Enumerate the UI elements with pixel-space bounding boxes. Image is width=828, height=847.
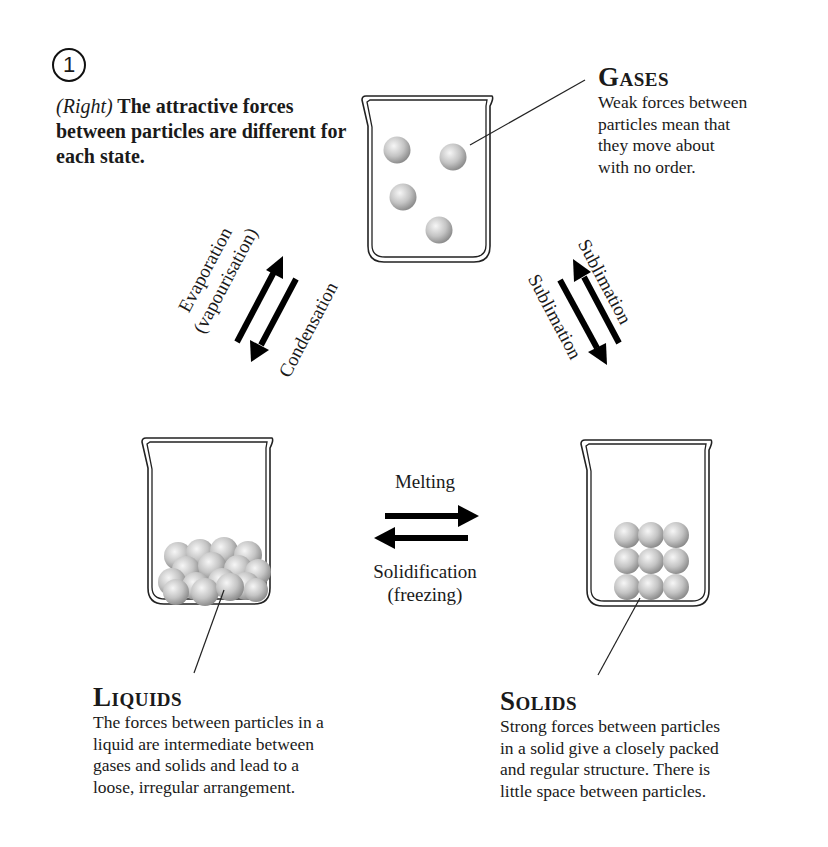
melting-arrow (385, 505, 479, 527)
solidification-label: Solidification (freezing) (350, 560, 500, 606)
liquid-particles (158, 537, 271, 606)
caption-prefix: (Right) (56, 95, 113, 117)
liquids-desc-line: loose, irregular arrangement. (93, 777, 393, 799)
gas-particles (384, 137, 467, 244)
liquids-desc-line: The forces between particles in a (93, 712, 393, 734)
gases-desc-line: with no order. (598, 157, 828, 179)
liquids-description: The forces between particles in a liquid… (93, 712, 393, 798)
solids-leader-line (598, 598, 640, 675)
gases-desc-line: they move about (598, 135, 828, 157)
solids-desc-line: Strong forces between particles (500, 716, 800, 738)
liquids-label-block: Liquids The forces between particles in … (93, 682, 393, 798)
liquids-desc-line: gases and solids and lead to a (93, 755, 393, 777)
step-number-badge: 1 (52, 48, 86, 82)
gases-title: Gases (598, 62, 828, 92)
gases-leader-line (470, 80, 585, 145)
figure-caption: (Right) The attractive forces between pa… (56, 94, 356, 169)
melting-text: Melting (370, 470, 480, 493)
solid-particles (614, 522, 689, 600)
solids-desc-line: and regular structure. There is (500, 759, 800, 781)
gases-label-block: Gases Weak forces between particles mean… (598, 62, 828, 178)
solids-desc-line: in a solid give a closely packed (500, 738, 800, 760)
freezing-text: (freezing) (350, 583, 500, 606)
liquids-title: Liquids (93, 682, 393, 712)
gas-beaker (362, 96, 493, 262)
solidification-arrow (374, 527, 468, 549)
gases-desc-line: particles mean that (598, 114, 828, 136)
solids-title: Solids (500, 686, 800, 716)
solids-description: Strong forces between particles in a sol… (500, 716, 800, 802)
solids-desc-line: little space between particles. (500, 781, 800, 803)
gases-desc-line: Weak forces between (598, 92, 828, 114)
gases-description: Weak forces between particles mean that … (598, 92, 828, 178)
liquids-desc-line: liquid are intermediate between (93, 734, 393, 756)
melting-label: Melting (370, 470, 480, 493)
solids-label-block: Solids Strong forces between particles i… (500, 686, 800, 802)
solidification-text: Solidification (350, 560, 500, 583)
